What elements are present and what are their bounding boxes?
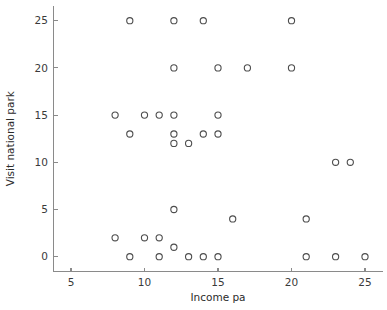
data-point-marker	[127, 18, 133, 24]
x-tick-label: 15	[211, 276, 224, 288]
data-point-marker	[156, 112, 162, 118]
data-point-marker	[244, 65, 250, 71]
data-point-marker	[333, 159, 339, 165]
x-tick-label: 10	[138, 276, 151, 288]
x-tick-label: 20	[285, 276, 298, 288]
data-point-marker	[171, 206, 177, 212]
data-point-marker	[112, 235, 118, 241]
x-axis-title: Income pa	[190, 291, 245, 303]
data-point-marker	[112, 112, 118, 118]
data-point-marker	[156, 235, 162, 241]
data-point-marker	[215, 112, 221, 118]
y-axis-title: Visit national park	[4, 90, 16, 186]
data-point-marker	[215, 254, 221, 260]
data-point-marker	[200, 18, 206, 24]
data-point-marker	[215, 65, 221, 71]
data-point-marker	[288, 18, 294, 24]
data-point-marker	[141, 112, 147, 118]
x-tick-label: 5	[68, 276, 75, 288]
data-point-marker	[171, 18, 177, 24]
data-point-marker	[362, 254, 368, 260]
data-point-marker	[171, 140, 177, 146]
data-point-marker	[200, 131, 206, 137]
data-point-marker	[156, 254, 162, 260]
data-point-marker	[171, 65, 177, 71]
data-point-marker	[200, 254, 206, 260]
x-tick-label: 25	[358, 276, 371, 288]
scatter-plot-figure: 5101520250510152025Income paVisit nation…	[0, 0, 387, 310]
data-point-marker	[127, 254, 133, 260]
y-tick-label: 15	[34, 109, 47, 121]
data-point-marker	[141, 235, 147, 241]
data-point-marker	[303, 254, 309, 260]
data-point-marker	[171, 131, 177, 137]
data-point-marker	[127, 131, 133, 137]
data-point-marker	[171, 112, 177, 118]
data-point-marker	[347, 159, 353, 165]
plot-canvas: 5101520250510152025Income paVisit nation…	[0, 0, 387, 310]
y-tick-label: 10	[34, 156, 47, 168]
y-tick-label: 5	[41, 203, 48, 215]
data-point-marker	[230, 216, 236, 222]
data-point-marker	[288, 65, 294, 71]
data-point-marker	[186, 140, 192, 146]
data-point-marker	[171, 244, 177, 250]
y-tick-label: 25	[34, 14, 47, 26]
data-point-marker	[333, 254, 339, 260]
data-point-marker	[186, 254, 192, 260]
data-point-marker	[303, 216, 309, 222]
data-point-marker	[215, 131, 221, 137]
y-tick-label: 20	[34, 62, 47, 74]
y-tick-label: 0	[41, 250, 48, 262]
